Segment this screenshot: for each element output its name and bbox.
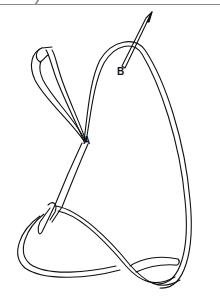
point-b-label: B [117, 67, 124, 77]
thread-left-loop [31, 47, 86, 141]
stitch-diagram [0, 0, 220, 301]
thread-main-loop [84, 42, 191, 288]
needle-icon [122, 12, 152, 68]
thread-lower-section [18, 143, 180, 285]
point-a-label: A [83, 136, 90, 146]
